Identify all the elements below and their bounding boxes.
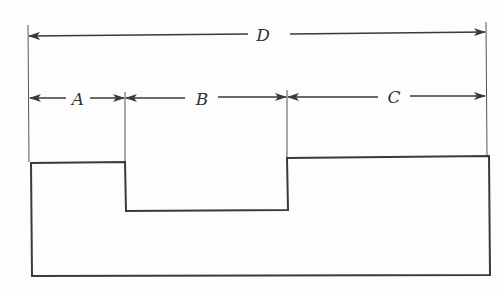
extension-line-left (28, 25, 29, 162)
dimension-label-d: D (255, 25, 270, 45)
dimension-label-c: C (387, 87, 400, 107)
dimension-d-right-arrow (290, 32, 485, 34)
dimension-d-left-arrow (29, 34, 248, 36)
diagram-canvas: D A B C (0, 0, 504, 289)
dimension-diagram: D A B C (0, 0, 504, 289)
stepped-profile-shape (31, 156, 490, 276)
extension-line-right (486, 22, 487, 157)
dimension-label-a: A (70, 89, 84, 109)
dimension-label-b: B (195, 89, 209, 109)
